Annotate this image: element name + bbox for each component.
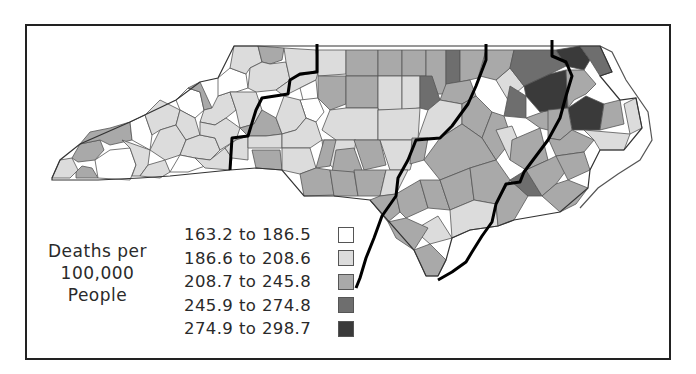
county	[402, 76, 420, 110]
legend-row: 274.9 to 298.7	[184, 317, 354, 341]
county	[346, 76, 378, 108]
legend-swatch	[338, 321, 354, 337]
county	[446, 50, 460, 84]
county	[330, 170, 358, 196]
legend-row: 186.6 to 208.6	[184, 247, 354, 271]
legend-title-line-3: People	[30, 284, 165, 306]
legend-title-line-1: Deaths per	[30, 240, 165, 262]
county	[258, 46, 284, 64]
legend-swatch	[338, 227, 354, 243]
county	[402, 50, 426, 76]
legend-label: 274.9 to 298.7	[184, 319, 334, 338]
legend-swatch	[338, 274, 354, 290]
legend-label: 208.7 to 245.8	[184, 272, 334, 291]
county	[378, 76, 402, 110]
legend-swatch	[338, 297, 354, 313]
county	[76, 166, 98, 178]
legend: 163.2 to 186.5 186.6 to 208.6 208.7 to 2…	[184, 223, 354, 341]
county	[248, 134, 282, 148]
county	[378, 50, 402, 76]
county	[346, 50, 378, 76]
legend-swatch	[338, 250, 354, 266]
legend-label: 163.2 to 186.5	[184, 225, 334, 244]
legend-row: 208.7 to 245.8	[184, 270, 354, 294]
county	[322, 108, 378, 140]
legend-title-line-2: 100,000	[30, 262, 165, 284]
county	[318, 50, 346, 76]
county	[300, 168, 334, 196]
legend-label: 245.9 to 274.8	[184, 296, 334, 315]
county	[318, 76, 346, 110]
legend-row: 245.9 to 274.8	[184, 294, 354, 318]
legend-title: Deaths per 100,000 People	[30, 240, 165, 306]
county	[600, 100, 624, 130]
county	[378, 108, 420, 140]
legend-label: 186.6 to 208.6	[184, 249, 334, 268]
county	[252, 150, 282, 170]
legend-row: 163.2 to 186.5	[184, 223, 354, 247]
county	[388, 218, 428, 250]
